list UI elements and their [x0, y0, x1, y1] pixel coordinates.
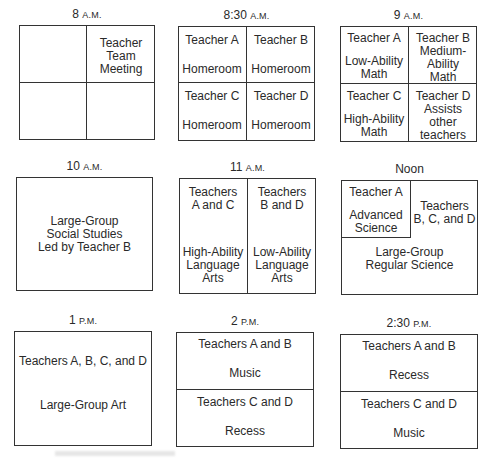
figure-caption-cropped [55, 451, 175, 456]
cell-teacher-c: Teacher C High-Ability Math [340, 90, 408, 139]
cell-large-group-social-studies: Large-Group Social Studies Led by Teache… [16, 215, 153, 254]
cell-teachers-c-d: Teachers C and D Recess [176, 396, 314, 438]
time-label: 8 A.M. [19, 7, 155, 21]
cell-teacher-b: Teacher B Medium- Ability Math [409, 32, 477, 84]
slot-1pm: 1 P.M. Teachers A, B, C, and D Large-Gro… [14, 331, 152, 446]
cell-all-teachers-art: Teachers A, B, C, and D Large-Group Art [14, 355, 152, 412]
time-label: Noon [341, 162, 478, 176]
slot-11am: 11 A.M. Teachers A and C High-Ability La… [179, 178, 316, 294]
cell-teachers-c-d: Teachers C and D Music [340, 398, 478, 440]
slot-8am: 8 A.M. Teacher Team Meeting [19, 25, 155, 140]
time-label: 10 A.M. [16, 159, 153, 173]
cell-teachers-a-b: Teachers A and B Music [176, 338, 314, 380]
time-label: 11 A.M. [179, 160, 316, 174]
cell-teachers-b-d: Teachers B and D Low-Ability Language Ar… [248, 186, 316, 285]
cell-teacher-d: Teacher D Homeroom [247, 90, 315, 132]
time-label: 2:30 P.M. [340, 316, 478, 330]
time-label: 1 P.M. [14, 313, 152, 327]
slot-2pm: 2 P.M. Teachers A and B Music Teachers C… [176, 332, 314, 447]
cell-teacher-d: Teacher D Assists other teachers [409, 90, 477, 142]
time-label: 2 P.M. [176, 314, 314, 328]
cell-teachers-a-b: Teachers A and B Recess [340, 340, 478, 382]
time-label: 8:30 A.M. [178, 8, 315, 22]
cell-teacher-c: Teacher C Homeroom [178, 90, 246, 132]
slot-230pm: 2:30 P.M. Teachers A and B Recess Teache… [340, 334, 478, 449]
cell-large-group-regular-science: Large-Group Regular Science [341, 246, 478, 272]
cell-teacher-b: Teacher B Homeroom [247, 34, 315, 76]
cell-teachers-bcd: Teachers B, C, and D [411, 200, 478, 226]
slot-830am: 8:30 A.M. Teacher A Homeroom Teacher B H… [178, 26, 315, 141]
cell-teacher-a: Teacher A Homeroom [178, 34, 246, 76]
slot-10am: 10 A.M. Large-Group Social Studies Led b… [16, 177, 153, 291]
cell-teacher-team-meeting: Teacher Team Meeting [87, 37, 155, 76]
time-label: 9 A.M. [340, 8, 477, 22]
cell-teacher-a-advanced-science: Teacher A Advanced Science [341, 186, 411, 235]
slot-9am: 9 A.M. Teacher A Low-Ability Math Teache… [340, 26, 477, 142]
cell-teachers-a-c: Teachers A and C High-Ability Language A… [179, 186, 247, 285]
cell-teacher-a: Teacher A Low-Ability Math [340, 32, 408, 81]
slot-noon: Noon Teacher A Advanced Science Teachers… [341, 180, 478, 295]
